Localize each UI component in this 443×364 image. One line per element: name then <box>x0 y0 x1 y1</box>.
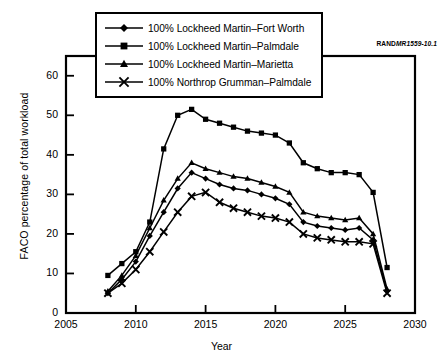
axis-ticks <box>66 76 415 313</box>
marker-square <box>287 140 292 145</box>
marker-square <box>105 273 110 278</box>
marker-diamond <box>161 209 167 215</box>
y-tick-60: 60 <box>28 69 58 81</box>
marker-cross <box>132 266 139 273</box>
marker-cross <box>216 199 223 206</box>
y-tick-0: 0 <box>28 306 58 318</box>
legend-item-3: 100% Northrop Grumman–Palmdale <box>103 73 315 91</box>
marker-cross <box>174 209 181 216</box>
marker-square <box>357 172 362 177</box>
legend-item-2: 100% Lockheed Martin–Marietta <box>103 55 315 73</box>
legend-label-3: 100% Northrop Grumman–Palmdale <box>145 77 311 88</box>
series-3 <box>104 189 390 297</box>
marker-square <box>370 190 375 195</box>
rand-id-bold: RAND <box>376 40 395 47</box>
marker-square <box>175 113 180 118</box>
marker-diamond <box>342 227 348 233</box>
marker-diamond <box>120 24 128 32</box>
legend-label-1: 100% Lockheed Martin–Palmdale <box>145 41 299 52</box>
legend-symbol-diamond-icon <box>103 20 145 36</box>
chart-legend: 100% Lockheed Martin–Fort Worth100% Lock… <box>95 12 323 98</box>
legend-label-0: 100% Lockheed Martin–Fort Worth <box>145 23 304 34</box>
marker-square <box>189 107 194 112</box>
x-tick-2030: 2030 <box>395 318 435 330</box>
y-tick-30: 30 <box>28 187 58 199</box>
data-series-group <box>104 107 390 297</box>
rand-document-id: RANDMR1559-10.1 <box>376 40 437 47</box>
y-tick-10: 10 <box>28 266 58 278</box>
y-axis-label: FACO percentage of total workload <box>18 66 30 286</box>
x-tick-2010: 2010 <box>116 318 156 330</box>
x-tick-2020: 2020 <box>255 318 295 330</box>
x-tick-2025: 2025 <box>325 318 365 330</box>
legend-symbol-square-icon <box>103 38 145 54</box>
x-tick-2005: 2005 <box>46 318 86 330</box>
marker-square <box>203 117 208 122</box>
marker-square <box>231 125 236 130</box>
marker-square <box>245 128 250 133</box>
marker-square <box>384 265 389 270</box>
marker-square <box>301 160 306 165</box>
x-axis-label: Year <box>0 340 443 352</box>
marker-cross <box>160 228 167 235</box>
marker-diamond <box>272 195 278 201</box>
marker-square <box>119 261 124 266</box>
legend-label-2: 100% Lockheed Martin–Marietta <box>145 59 293 70</box>
marker-diamond <box>314 223 320 229</box>
legend-symbol-cross-icon <box>103 74 145 90</box>
x-tick-2015: 2015 <box>186 318 226 330</box>
chart-figure: FACO percentage of total workload Year 6… <box>0 0 443 364</box>
marker-diamond <box>258 191 264 197</box>
marker-diamond <box>203 175 209 181</box>
marker-triangle <box>189 159 195 164</box>
marker-square <box>161 146 166 151</box>
marker-diamond <box>328 225 334 231</box>
y-tick-50: 50 <box>28 108 58 120</box>
marker-square <box>259 130 264 135</box>
y-tick-20: 20 <box>28 227 58 239</box>
rand-id-italic: MR1559-10.1 <box>396 40 437 47</box>
marker-diamond <box>216 181 222 187</box>
marker-cross <box>146 248 153 255</box>
marker-square <box>273 132 278 137</box>
marker-diamond <box>230 185 236 191</box>
marker-square <box>217 121 222 126</box>
marker-square <box>121 43 128 50</box>
legend-item-1: 100% Lockheed Martin–Palmdale <box>103 37 315 55</box>
marker-square <box>315 166 320 171</box>
marker-triangle <box>356 215 362 220</box>
marker-square <box>343 170 348 175</box>
legend-item-0: 100% Lockheed Martin–Fort Worth <box>103 19 315 37</box>
legend-symbol-triangle-icon <box>103 56 145 72</box>
marker-square <box>329 170 334 175</box>
y-tick-40: 40 <box>28 148 58 160</box>
marker-diamond <box>244 187 250 193</box>
